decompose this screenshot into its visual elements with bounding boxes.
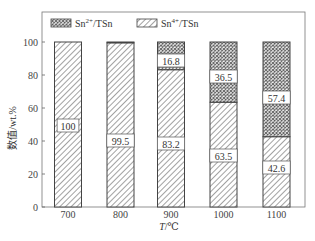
segment-sn2 <box>263 42 290 137</box>
bars: 10099.583.216.863.536.542.657.4 <box>55 42 291 207</box>
bar-700: 100 <box>55 42 82 207</box>
bar-1100: 42.657.4 <box>263 42 290 207</box>
value-label-sn2: 36.5 <box>215 72 233 83</box>
legend-swatch <box>137 19 157 27</box>
y-axis-label: 数值/wt.% <box>6 106 18 150</box>
y-tick-label: 40 <box>28 136 38 147</box>
x-tick-label: 900 <box>164 209 179 220</box>
stacked-bar-chart: 020406080100 70080090010001100 10099.583… <box>0 0 315 241</box>
legend-swatch <box>51 19 71 27</box>
value-label-sn4: 42.6 <box>268 163 286 174</box>
y-tick-label: 80 <box>28 70 38 81</box>
value-label-sn4: 99.5 <box>112 136 130 147</box>
y-tick-label: 0 <box>33 202 38 213</box>
x-tick-label: 1100 <box>267 209 287 220</box>
x-tick-label: 800 <box>113 209 128 220</box>
legend-label: Sn4+/TSn <box>161 17 198 29</box>
bar-900: 83.216.8 <box>157 42 184 207</box>
x-axis-label: T/℃ <box>159 221 179 232</box>
legend-item-0: Sn2+/TSn <box>51 17 112 29</box>
y-tick-label: 100 <box>23 37 38 48</box>
x-tick-label: 1000 <box>214 209 234 220</box>
value-label-sn4: 100 <box>61 121 76 132</box>
value-label-sn4: 83.2 <box>162 139 180 150</box>
bar-1000: 63.536.5 <box>210 42 237 207</box>
value-label-sn2: 57.4 <box>268 93 286 104</box>
x-axis: 70080090010001100 <box>61 209 287 220</box>
bar-800: 99.5 <box>107 42 134 207</box>
legend-label: Sn2+/TSn <box>75 17 112 29</box>
value-label-sn2: 16.8 <box>162 56 180 67</box>
x-tick-label: 700 <box>61 209 76 220</box>
y-tick-label: 60 <box>28 103 38 114</box>
value-label-sn4: 63.5 <box>215 151 233 162</box>
legend-item-1: Sn4+/TSn <box>137 17 198 29</box>
legend: Sn2+/TSnSn4+/TSn <box>51 17 198 29</box>
segment-sn4 <box>107 43 134 207</box>
segment-sn2 <box>107 42 134 43</box>
y-tick-label: 20 <box>28 169 38 180</box>
